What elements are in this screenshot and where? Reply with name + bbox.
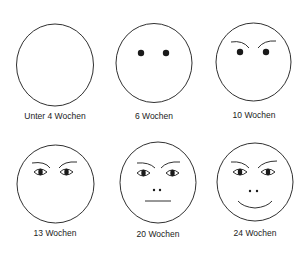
face-10-weeks [216, 23, 291, 101]
left-nostril-icon [153, 189, 155, 191]
left-nostril-icon [249, 190, 251, 192]
mouth-smile-icon [238, 201, 272, 208]
face-24-weeks [217, 143, 293, 221]
right-eye-icon [60, 169, 73, 176]
face-development-figure: Unter 4 Wochen 6 Wochen 10 Wochen 13 Woc… [0, 0, 306, 255]
face-6-weeks [116, 24, 192, 103]
face-label-20-weeks: 20 Wochen [108, 229, 208, 239]
left-eye-icon [233, 169, 247, 176]
face-outline [120, 142, 196, 223]
face-outline [17, 145, 94, 223]
face-label-under-4-weeks: Unter 4 Wochen [5, 111, 105, 121]
face-label-24-weeks: 24 Wochen [205, 228, 305, 238]
face-outline [216, 23, 291, 101]
right-eyebrow-icon [161, 162, 180, 168]
face-under-4-weeks [17, 24, 94, 106]
left-eye-icon [237, 49, 243, 55]
right-eye-icon [261, 169, 275, 176]
face-label-13-weeks: 13 Wochen [5, 228, 105, 238]
left-eyebrow-icon [137, 163, 155, 168]
face-outline [116, 24, 192, 103]
right-eye-icon [166, 170, 179, 177]
right-eyebrow-icon [59, 162, 77, 168]
left-eye-icon [137, 170, 150, 177]
right-eyebrow-icon [258, 41, 276, 48]
face-outline [17, 24, 94, 106]
right-eye-icon [263, 49, 269, 55]
left-eyebrow-icon [32, 163, 50, 168]
left-eye-icon [34, 169, 47, 176]
faces-drawing [0, 0, 306, 255]
face-label-6-weeks: 6 Wochen [104, 111, 204, 121]
face-13-weeks [17, 145, 94, 223]
face-outline [217, 143, 293, 221]
left-eyebrow-icon [231, 162, 249, 168]
right-eyebrow-icon [258, 161, 277, 168]
right-nostril-icon [256, 190, 258, 192]
right-eye-icon [163, 50, 169, 56]
left-eye-icon [138, 50, 144, 56]
face-label-10-weeks: 10 Wochen [204, 110, 304, 120]
face-20-weeks [120, 142, 196, 223]
left-eyebrow-icon [231, 42, 249, 48]
right-nostril-icon [159, 189, 161, 191]
